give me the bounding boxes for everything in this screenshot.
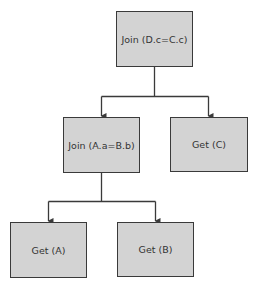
node-get-a: Get (A) <box>10 222 87 278</box>
node-label: Get (C) <box>192 139 226 150</box>
node-label: Join (D.c=C.c) <box>121 34 187 45</box>
node-get-b: Get (B) <box>117 222 194 277</box>
node-label: Get (A) <box>32 245 66 256</box>
node-label: Get (B) <box>139 244 173 255</box>
node-join-ab: Join (A.a=B.b) <box>63 117 140 173</box>
node-label: Join (A.a=B.b) <box>68 140 134 151</box>
node-get-c: Get (C) <box>170 117 248 172</box>
node-join-dc: Join (D.c=C.c) <box>116 11 193 67</box>
